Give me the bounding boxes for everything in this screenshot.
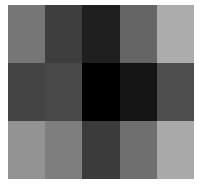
heatmap-cell-r1-c1 (45, 63, 82, 121)
heatmap-cell-r2-c3 (120, 121, 157, 179)
heatmap-cell-r0-c0 (8, 5, 45, 63)
heatmap-cell-r0-c4 (157, 5, 194, 63)
heatmap-grid (8, 5, 194, 179)
heatmap-cell-r0-c2 (82, 5, 119, 63)
heatmap-cell-r1-c2 (82, 63, 119, 121)
heatmap-cell-r1-c0 (8, 63, 45, 121)
heatmap-cell-r2-c4 (157, 121, 194, 179)
heatmap-cell-r0-c3 (120, 5, 157, 63)
heatmap-cell-r2-c2 (82, 121, 119, 179)
heatmap-cell-r1-c4 (157, 63, 194, 121)
heatmap-cell-r1-c3 (120, 63, 157, 121)
heatmap-cell-r2-c1 (45, 121, 82, 179)
heatmap-cell-r0-c1 (45, 5, 82, 63)
heatmap-cell-r2-c0 (8, 121, 45, 179)
